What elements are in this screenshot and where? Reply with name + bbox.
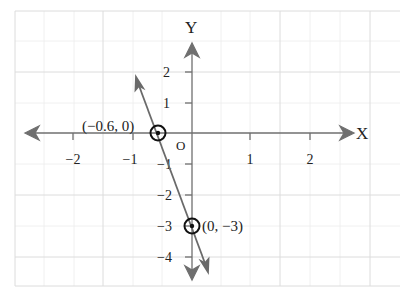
x-tick-label: −2 xyxy=(66,152,81,167)
y-tick-label: −3 xyxy=(157,219,172,234)
x-axis-label: X xyxy=(356,124,368,143)
y-tick-label: −2 xyxy=(157,188,172,203)
x-tick-label: −1 xyxy=(123,152,138,167)
origin-label: O xyxy=(176,138,185,153)
point-label-y-intercept: (0, −3) xyxy=(202,218,243,235)
plotted-line xyxy=(136,77,209,272)
y-tick-label: 2 xyxy=(163,65,170,80)
point-label-x-intercept: (−0.6, 0) xyxy=(82,118,134,135)
grid-major xyxy=(15,11,400,286)
y-axis xyxy=(185,43,199,280)
grid-minor xyxy=(15,11,400,286)
y-axis-label: Y xyxy=(185,18,197,37)
x-tick-label: 1 xyxy=(247,152,254,167)
x-tick-label: 2 xyxy=(307,152,314,167)
coordinate-plane: X Y O −2 −1 1 2 2 1 −1 −2 −3 −4 (−0.6, 0… xyxy=(0,0,403,293)
y-tick-label: −4 xyxy=(157,250,172,265)
y-tick-label: 1 xyxy=(163,96,170,111)
